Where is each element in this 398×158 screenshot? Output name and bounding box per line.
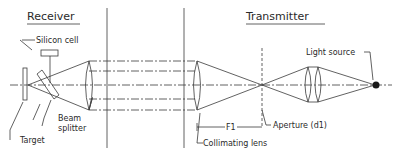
collimating-lens <box>194 61 201 110</box>
label-aperture: Aperture (d1) <box>273 121 327 130</box>
silicon-cell <box>41 50 58 56</box>
label-receiver: Receiver <box>27 10 75 23</box>
label-target: Target <box>19 136 45 145</box>
label-transmitter: Transmitter <box>245 10 309 23</box>
label-beam-splitter-1: Beam <box>58 114 81 123</box>
condenser-lens-2 <box>315 67 321 102</box>
label-beam-splitter-2: splitter <box>58 124 87 133</box>
label-f1: F1 <box>226 123 236 132</box>
label-light-source: Light source <box>306 48 355 57</box>
label-silicon-cell: Silicon cell <box>36 36 78 45</box>
light-source <box>373 82 380 89</box>
receiver-lens <box>86 61 93 110</box>
optical-diagram: Receiver Transmitter Silicon cell Beam s… <box>0 0 398 158</box>
diagram-canvas: Receiver Transmitter Silicon cell Beam s… <box>0 0 398 158</box>
condenser-lens-1 <box>305 67 311 102</box>
label-collimating-lens: Collimating lens <box>203 139 267 148</box>
target <box>23 68 27 100</box>
